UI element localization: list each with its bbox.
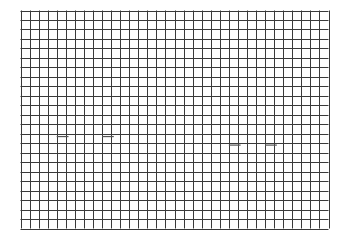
grid-paper [0, 0, 346, 240]
grid-lines [21, 11, 330, 230]
